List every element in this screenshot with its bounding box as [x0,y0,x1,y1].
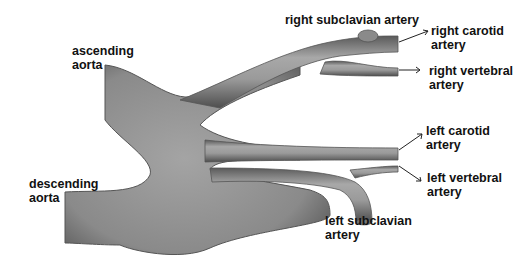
label-ascending-aorta: ascending aorta [72,44,134,72]
label-left-carotid-artery: left carotid artery [426,124,490,152]
label-left-subclavian-artery: left subclavian artery [325,214,412,242]
label-descending-aorta: descending aorta [29,177,98,205]
label-left-vertebral-artery: left vertebral artery [427,171,502,199]
aorta-diagram: ascending aorta descending aorta right s… [0,0,532,262]
label-right-vertebral-artery: right vertebral artery [429,64,513,92]
label-right-carotid-artery: right carotid artery [431,24,504,52]
label-right-subclavian-artery: right subclavian artery [285,13,419,27]
